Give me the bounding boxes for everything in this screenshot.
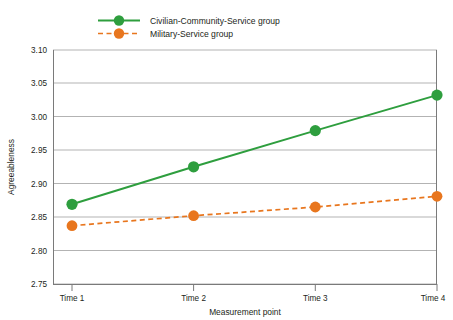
data-point-civilian-time-1[interactable] (66, 199, 77, 210)
legend-label-civilian: Civilian-Community-Service group (150, 16, 280, 26)
data-point-military-time-4[interactable] (432, 191, 443, 202)
legend-item-military[interactable]: Military-Service group (98, 28, 233, 39)
y-tick-label-2-80: 2.80 (31, 247, 47, 256)
y-tick-label-2-85: 2.85 (31, 213, 47, 222)
x-tick-label-time-3: Time 3 (303, 294, 328, 303)
data-point-military-time-1[interactable] (67, 220, 78, 231)
chart-background (0, 0, 453, 320)
line-chart-figure: Civilian-Community-Service group Militar… (0, 0, 453, 320)
data-point-military-time-2[interactable] (188, 210, 199, 221)
legend-marker-military (114, 28, 124, 38)
data-point-civilian-time-2[interactable] (188, 161, 199, 172)
y-tick-label-2-90: 2.90 (31, 180, 47, 189)
chart-canvas: Civilian-Community-Service group Militar… (0, 0, 453, 320)
data-point-civilian-time-3[interactable] (310, 125, 321, 136)
y-tick-label-3-05: 3.05 (31, 79, 47, 88)
x-tick-label-time-4: Time 4 (421, 294, 446, 303)
legend-marker-civilian (114, 15, 124, 25)
y-tick-label-3-10: 3.10 (31, 46, 47, 55)
x-tick-label-time-2: Time 2 (181, 294, 206, 303)
legend-label-military: Military-Service group (150, 29, 233, 39)
y-tick-label-2-95: 2.95 (31, 146, 47, 155)
y-tick-label-3-00: 3.00 (31, 113, 47, 122)
y-tick-label-2-75: 2.75 (31, 280, 47, 289)
y-axis-title: Agreeableness (6, 139, 16, 195)
x-tick-label-time-1: Time 1 (60, 294, 85, 303)
x-axis-title: Measurement point (209, 307, 281, 317)
data-point-civilian-time-4[interactable] (431, 90, 442, 101)
data-point-military-time-3[interactable] (310, 202, 321, 213)
